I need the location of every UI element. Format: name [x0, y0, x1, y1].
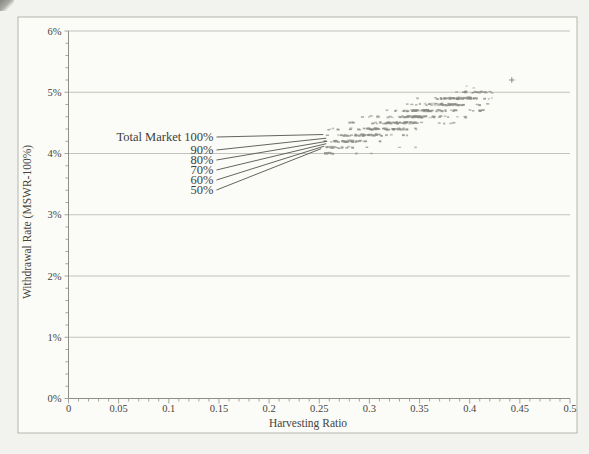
scatter-point: [456, 105, 459, 107]
x-tick-label: 0.05: [109, 403, 127, 414]
scatter-point: [476, 92, 479, 94]
scatter-point: [452, 97, 455, 99]
scatter-point: [406, 121, 408, 123]
scatter-point: [415, 104, 417, 105]
scatter-point: [483, 98, 486, 100]
scatter-point: [455, 91, 458, 93]
mswr-vs-harvesting-ratio-chart: 0%1%2%3%4%5%6%00.050.10.150.20.250.30.35…: [0, 0, 589, 454]
figure-border: [18, 17, 577, 433]
scatter-point: [434, 97, 437, 98]
scatter-point: [422, 111, 425, 113]
scatter-point: [330, 128, 332, 129]
x-tick-label: 0.5: [563, 403, 576, 414]
scatter-point: [458, 97, 460, 99]
scatter-point: [419, 103, 421, 105]
scatter-point: [416, 109, 419, 110]
scatter-point: [466, 98, 468, 100]
scatter-point: [349, 135, 351, 137]
scatter-point: [440, 104, 443, 106]
scatter-point: [436, 98, 438, 100]
scatter-point: [398, 147, 401, 148]
scatter-point: [393, 122, 395, 124]
scatter-point: [346, 135, 348, 137]
scatter-point: [454, 109, 456, 110]
scatter-point: [414, 121, 417, 123]
scatter-point: [332, 128, 334, 130]
scatter-point: [473, 98, 475, 100]
x-tick-label: 0.35: [410, 403, 428, 414]
scatter-point: [439, 115, 442, 117]
scatter-point: [362, 135, 365, 137]
scatter-point: [469, 109, 472, 111]
scatter-point: [396, 129, 399, 130]
scatter-point: [456, 99, 459, 100]
scatter-point: [449, 98, 452, 100]
scatter-point: [478, 92, 481, 94]
scatter-point: [329, 146, 332, 148]
x-axis-title: Harvesting Ratio: [269, 417, 347, 430]
scatter-point: [386, 129, 388, 131]
scatter-point: [411, 117, 414, 119]
y-tick-label: 0%: [48, 393, 62, 404]
scatter-point: [366, 147, 369, 149]
scatter-point: [486, 103, 489, 105]
scan-artifact: [0, 0, 14, 11]
scatter-point: [434, 103, 437, 105]
scatter-point: [420, 122, 423, 123]
scatter-point: [380, 122, 382, 124]
scatter-point: [450, 110, 452, 112]
scatter-point: [333, 147, 335, 149]
scatter-point: [482, 109, 485, 111]
scatter-point: [407, 111, 409, 112]
scatter-point: [406, 129, 408, 131]
x-tick-label: 0.1: [162, 403, 175, 414]
scatter-point: [332, 153, 334, 155]
scatter-point: [376, 115, 379, 117]
scatter-point: [327, 129, 329, 131]
scatter-point: [453, 103, 456, 105]
scatter-point: [350, 127, 353, 128]
x-tick-label: 0.45: [511, 403, 529, 414]
scatter-point: [348, 140, 350, 142]
scatter-point: [345, 141, 348, 143]
scatter-point: [466, 86, 468, 87]
scatter-point: [430, 104, 432, 106]
scatter-point: [448, 104, 451, 106]
scatter-point: [348, 122, 351, 124]
scatter-point: [395, 110, 398, 112]
scatter-point: [491, 97, 493, 98]
scatter-point: [371, 129, 374, 130]
x-tick-label: 0: [66, 403, 71, 414]
scatter-point: [462, 104, 464, 106]
scatter-point: [352, 147, 354, 149]
scatter-point: [410, 104, 413, 106]
scatter-point: [337, 129, 340, 131]
scatter-point: [429, 117, 432, 118]
scatter-point: [438, 122, 441, 124]
y-tick-label: 6%: [48, 26, 62, 37]
scatter-point: [427, 110, 430, 112]
scatter-point: [383, 123, 386, 124]
scatter-point: [384, 128, 386, 130]
y-tick-label: 2%: [48, 271, 62, 282]
scatter-point: [440, 97, 442, 99]
scatter-point: [363, 128, 365, 130]
scatter-point: [465, 90, 468, 92]
scatter-point: [447, 116, 449, 118]
scatter-point: [482, 91, 484, 93]
scatter-point: [416, 116, 418, 117]
x-tick-label: 0.25: [310, 403, 328, 414]
scatter-point: [479, 110, 482, 112]
scatter-point: [324, 152, 327, 153]
scatter-point: [404, 122, 407, 124]
scatter-point: [359, 140, 362, 141]
scatter-point: [435, 110, 437, 112]
scatter-point: [376, 128, 379, 130]
scatter-point: [446, 98, 449, 100]
scatter-point: [399, 122, 401, 124]
callout-label: Total Market 100%: [116, 130, 213, 144]
scatter-point: [347, 146, 350, 148]
scatter-point: [449, 97, 452, 99]
y-tick-label: 1%: [48, 332, 62, 343]
y-axis-title: Withdrawal Rate (MSWR-100%): [21, 145, 34, 299]
